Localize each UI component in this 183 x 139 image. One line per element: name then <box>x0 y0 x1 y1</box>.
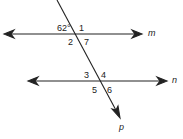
angle-3: 3 <box>84 71 89 80</box>
line-p <box>57 0 118 114</box>
arrow-down-p-icon <box>112 106 120 118</box>
angle-6: 6 <box>107 86 112 95</box>
angle-5: 5 <box>92 86 97 95</box>
label-p: p <box>119 123 124 132</box>
angle-7: 7 <box>84 38 89 47</box>
label-m: m <box>148 29 156 38</box>
angle-2: 2 <box>68 38 73 47</box>
angle-62: 62° <box>57 24 71 33</box>
label-n: n <box>172 76 177 85</box>
angle-4: 4 <box>101 71 106 80</box>
parallel-lines-diagram <box>0 0 183 139</box>
angle-1: 1 <box>79 24 84 33</box>
